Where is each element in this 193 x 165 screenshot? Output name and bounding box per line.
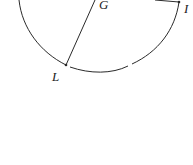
geometry-diagram: G I L xyxy=(0,0,193,165)
circle-arc-left xyxy=(19,0,66,65)
segment-lg xyxy=(66,0,95,65)
circle-arc-bottom xyxy=(70,66,128,72)
label-i: I xyxy=(183,1,189,16)
circle-arc-right xyxy=(132,2,179,64)
label-l: L xyxy=(51,69,59,84)
label-g: G xyxy=(99,0,109,12)
segment-i xyxy=(155,0,179,2)
point-i xyxy=(178,1,181,4)
point-l xyxy=(65,64,68,67)
